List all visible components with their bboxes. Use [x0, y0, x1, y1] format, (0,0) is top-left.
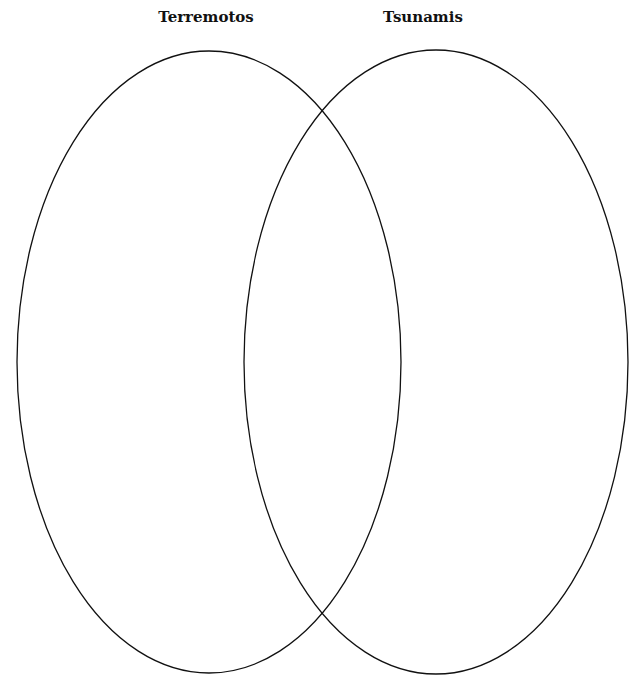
venn-diagram — [0, 0, 633, 686]
ellipse-terremotos — [17, 51, 401, 673]
ellipse-tsunamis — [244, 50, 628, 674]
